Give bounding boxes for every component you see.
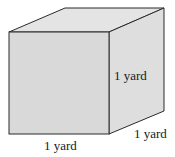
height-label: 1 yard [114, 68, 147, 83]
width-label: 1 yard [44, 138, 77, 153]
cube-diagram: 1 yard 1 yard 1 yard [0, 0, 175, 157]
depth-label: 1 yard [134, 126, 167, 141]
cube-front-face [9, 32, 109, 134]
